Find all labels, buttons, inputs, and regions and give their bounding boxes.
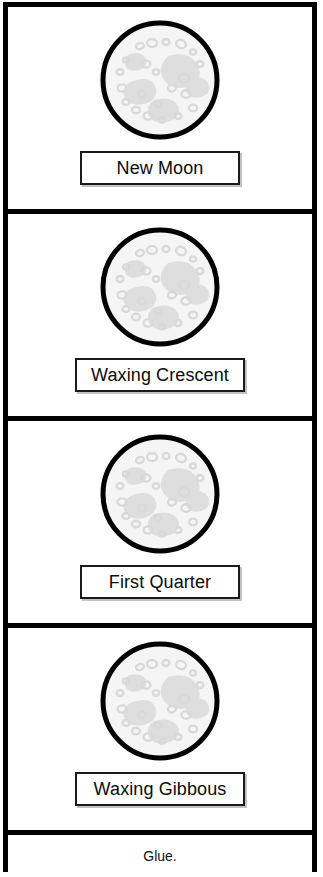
moon-phase-panel[interactable]: Waxing Gibbous bbox=[8, 628, 312, 835]
phase-label-text: Waxing Gibbous bbox=[94, 780, 227, 798]
glue-instruction-text: Glue. bbox=[143, 849, 176, 863]
moon-phase-panel[interactable]: First Quarter bbox=[8, 421, 312, 628]
phase-label-text: First Quarter bbox=[109, 573, 211, 591]
foldable-sheet: New Moon bbox=[3, 2, 317, 872]
full-moon-icon bbox=[96, 16, 224, 144]
full-moon-icon bbox=[96, 430, 224, 558]
phase-label-text: New Moon bbox=[117, 159, 204, 177]
moon-phase-panel[interactable]: New Moon bbox=[8, 7, 312, 214]
panel-stack: New Moon bbox=[8, 7, 312, 872]
full-moon-icon bbox=[96, 637, 224, 765]
full-moon-icon bbox=[96, 223, 224, 351]
phase-label-box[interactable]: First Quarter bbox=[80, 565, 240, 599]
phase-label-box[interactable]: Waxing Crescent bbox=[75, 358, 245, 392]
glue-strip-panel: Glue. bbox=[8, 835, 312, 872]
phase-label-box[interactable]: Waxing Gibbous bbox=[75, 772, 245, 806]
moon-phase-panel[interactable]: Waxing Crescent bbox=[8, 214, 312, 421]
phase-label-box[interactable]: New Moon bbox=[80, 151, 240, 185]
phase-label-text: Waxing Crescent bbox=[91, 366, 229, 384]
